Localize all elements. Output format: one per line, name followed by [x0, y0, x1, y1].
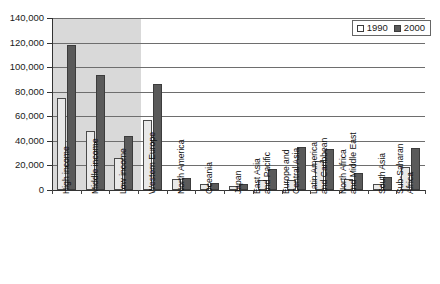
category-label-line: Low income: [119, 148, 129, 194]
legend-item-2000: 2000: [394, 23, 425, 33]
category-label-line: North America: [177, 140, 187, 194]
category-label-line: and Caribbean: [320, 138, 330, 194]
x-axis-tick: [195, 190, 196, 194]
y-axis-tick: [47, 116, 52, 117]
category-label-line: Japan: [234, 171, 244, 194]
y-axis-tick: [47, 67, 52, 68]
bar-chart: 140,000120,000100,00080,00060,00040,0002…: [0, 0, 440, 284]
category-label-line: Western Europe: [148, 132, 158, 194]
x-axis-tick: [425, 190, 426, 194]
category-label-line: South Asia: [378, 153, 388, 194]
x-axis-tick: [224, 190, 225, 194]
x-axis-tick: [368, 190, 369, 194]
category-label-line: High income: [62, 146, 72, 194]
y-axis-tick-label: 140,000: [10, 13, 44, 23]
legend-item-1990: 1990: [357, 23, 388, 33]
x-axis-tick: [109, 190, 110, 194]
plot-area: [52, 18, 425, 190]
y-axis-tick: [47, 141, 52, 142]
y-axis-tick-label: 80,000: [15, 87, 44, 97]
y-axis-tick: [47, 92, 52, 93]
category-label-line: Africa: [406, 143, 416, 194]
category-label-line: Middle income: [91, 139, 101, 194]
legend-label-1990: 1990: [367, 23, 388, 33]
y-axis-tick-label: 0: [39, 185, 44, 195]
y-axis-tick-label: 20,000: [15, 160, 44, 170]
chart-legend: 1990 2000: [352, 20, 431, 36]
x-axis-tick: [81, 190, 82, 194]
x-axis-tick: [52, 190, 53, 194]
category-label-line: and Pacific: [262, 152, 272, 194]
category-label-line: and Middle East: [349, 132, 359, 194]
category-label-line: East Asia: [253, 152, 263, 194]
y-axis-tick-label: 60,000: [15, 111, 44, 121]
legend-swatch-1990-icon: [357, 25, 364, 32]
y-axis-tick-label: 40,000: [15, 136, 44, 146]
category-label-line: Europe and: [282, 148, 292, 194]
y-axis-line: [52, 18, 53, 191]
x-axis-tick: [167, 190, 168, 194]
y-axis-tick: [47, 43, 52, 44]
category-label-line: Oceania: [205, 162, 215, 194]
y-axis-tick-label: 100,000: [10, 62, 44, 72]
y-axis-labels: 140,000120,000100,00080,00060,00040,0002…: [0, 0, 44, 284]
x-axis-tick: [138, 190, 139, 194]
legend-label-2000: 2000: [404, 23, 425, 33]
y-axis-tick-label: 120,000: [10, 38, 44, 48]
legend-swatch-2000-icon: [394, 25, 401, 32]
category-label-line: Central Asia: [291, 148, 301, 194]
y-axis-tick: [47, 18, 52, 19]
y-axis-tick: [47, 165, 52, 166]
